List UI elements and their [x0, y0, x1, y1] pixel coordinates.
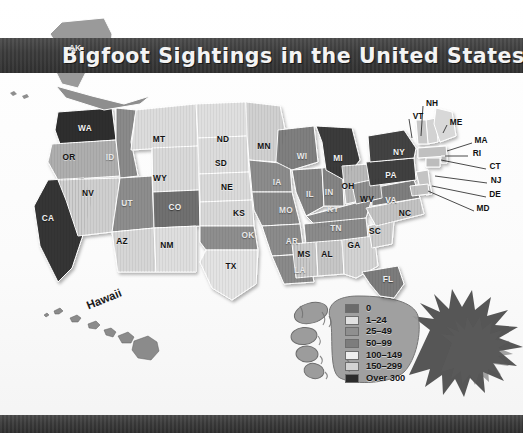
state-label-me: ME [450, 117, 462, 127]
legend-item: 0 [345, 303, 405, 315]
legend-swatch [345, 374, 359, 383]
legend-item: Over 300 [345, 373, 405, 385]
state-label-wy: WY [153, 173, 167, 183]
state-label-oh: OH [342, 181, 355, 191]
legend-item: 150–299 [345, 361, 405, 373]
legend-label: 150–299 [366, 362, 402, 371]
legend-swatch [345, 351, 359, 360]
legend-label: 0 [366, 304, 371, 313]
state-label-az: AZ [116, 236, 127, 246]
legend-label: 1–24 [366, 316, 387, 325]
state-label-ct: CT [489, 161, 500, 171]
state-label-nj: NJ [491, 175, 502, 185]
state-label-il: IL [306, 189, 314, 199]
legend-item: 50–99 [345, 338, 405, 350]
state-label-va: VA [385, 195, 396, 205]
legend-label: Over 300 [366, 374, 405, 383]
state-label-ny: NY [393, 147, 405, 157]
state-label-fl: FL [383, 274, 394, 284]
state-label-pa: PA [385, 170, 396, 180]
state-label-sd: SD [215, 158, 227, 168]
state-label-mo: MO [279, 205, 293, 215]
state-label-vt: VT [413, 111, 424, 121]
legend-item: 100–149 [345, 349, 405, 361]
state-label-tx: TX [225, 261, 236, 271]
state-label-sc: SC [369, 226, 381, 236]
state-label-in: IN [325, 187, 334, 197]
legend: 01–2425–4950–99100–149150–299Over 300 [345, 303, 405, 384]
map-poster: WAORCAIDNVUTAZMTWYCONMNDSDNEKSOKTXMNIAMO… [0, 0, 523, 433]
legend-swatch [345, 316, 359, 325]
legend-label: 100–149 [366, 351, 402, 360]
state-label-ms: MS [298, 249, 311, 259]
state-label-al: AL [321, 249, 332, 259]
state-label-ia: IA [273, 177, 282, 187]
state-label-wi: WI [297, 151, 308, 161]
state-label-ne: NE [221, 182, 233, 192]
legend-label: 50–99 [366, 339, 392, 348]
state-label-ar: AR [286, 236, 298, 246]
legend-item: 1–24 [345, 315, 405, 327]
state-label-nh: NH [426, 98, 438, 108]
state-label-mn: MN [257, 141, 270, 151]
state-label-tn: TN [330, 223, 341, 233]
state-label-ri: RI [473, 148, 481, 158]
state-label-wa: WA [78, 123, 92, 133]
bottom-frame-bar [0, 415, 523, 433]
state-label-co: CO [169, 202, 182, 212]
state-label-ok: OK [242, 230, 255, 240]
legend-label: 25–49 [366, 327, 392, 336]
legend-swatch [345, 339, 359, 348]
state-label-md: MD [477, 203, 490, 213]
state-label-nm: NM [160, 240, 173, 250]
state-label-ca: CA [42, 213, 54, 223]
state-label-mi: MI [333, 153, 343, 163]
state-label-nd: ND [217, 134, 229, 144]
state-label-ga: GA [348, 240, 361, 250]
state-label-mt: MT [153, 134, 165, 144]
state-label-wv: WV [360, 194, 374, 204]
state-label-ut: UT [121, 198, 132, 208]
state-label-de: DE [489, 189, 501, 199]
us-choropleth-map: WAORCAIDNVUTAZMTWYCONMNDSDNEKSOKTXMNIAMO… [0, 0, 523, 415]
legend-swatch [345, 304, 359, 313]
legend-swatch [345, 362, 359, 371]
state-label-or: OR [63, 152, 76, 162]
legend-swatch [345, 327, 359, 336]
state-label-ma: MA [475, 135, 488, 145]
state-label-nc: NC [399, 208, 411, 218]
state-label-ky: KY [327, 204, 339, 214]
state-label-nv: NV [82, 188, 94, 198]
state-label-la: LA [294, 265, 305, 275]
state-label-ks: KS [233, 208, 245, 218]
legend-item: 25–49 [345, 326, 405, 338]
state-label-id: ID [106, 152, 115, 162]
